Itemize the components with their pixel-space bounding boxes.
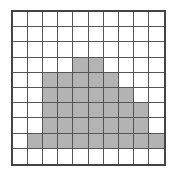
grid-cell [13,118,28,133]
grid-cell [28,27,43,42]
grid-cell [119,149,134,164]
grid-cell-shaded [119,134,134,149]
grid-cell [28,118,43,133]
grid-cell [43,27,58,42]
grid-cell-shaded [73,103,88,118]
grid-cell-shaded [43,103,58,118]
grid-cell [43,12,58,27]
grid-cell [43,58,58,73]
grid-cell [104,42,119,57]
grid-cell [149,42,164,57]
grid-cell [149,118,164,133]
grid-cell [58,58,73,73]
grid-cell-shaded [119,88,134,103]
grid-cell [89,149,104,164]
grid-cell [119,58,134,73]
grid-cell-shaded [104,103,119,118]
grid-cell [89,12,104,27]
grid-cell [73,12,88,27]
grid-cell [134,27,149,42]
grid-cell [28,88,43,103]
grid-cell [89,42,104,57]
grid-cell-shaded [43,118,58,133]
grid-cell-shaded [89,73,104,88]
grid-cell-shaded [119,118,134,133]
grid-cell [58,149,73,164]
grid-cell-shaded [104,88,119,103]
grid-cell-shaded [73,58,88,73]
grid-cell [104,58,119,73]
grid-cell [134,58,149,73]
grid-cell [58,12,73,27]
shaded-grid-diagram [11,10,166,166]
grid-cell-shaded [73,88,88,103]
grid-cell-shaded [43,88,58,103]
grid-cell-shaded [134,134,149,149]
grid-cell-shaded [58,134,73,149]
grid-cell [28,58,43,73]
grid-cell-shaded [73,73,88,88]
grid-cell [134,88,149,103]
grid-cell-shaded [149,134,164,149]
grid-cell [13,88,28,103]
grid-cell [13,134,28,149]
grid-cell [149,27,164,42]
grid-cell [28,42,43,57]
grid-cell [13,27,28,42]
grid-cell [149,88,164,103]
grid-cell-shaded [73,134,88,149]
grid-cell [13,12,28,27]
grid-cell [28,73,43,88]
grid-cell-shaded [58,73,73,88]
grid-cell [13,103,28,118]
grid-cell-shaded [89,58,104,73]
grid-cell [134,42,149,57]
grid-cell-shaded [43,134,58,149]
grid-cell [28,103,43,118]
grid-cell [28,12,43,27]
grid-cell [73,149,88,164]
grid-cell [134,73,149,88]
grid-cell [13,149,28,164]
grid-cell-shaded [119,103,134,118]
grid-cell-shaded [58,103,73,118]
grid-cell [149,73,164,88]
grid-cell [119,42,134,57]
grid-cell [43,149,58,164]
grid-cell-shaded [43,73,58,88]
grid-cell [43,42,58,57]
grid-cell-shaded [58,118,73,133]
grid-cell-shaded [104,118,119,133]
grid-cell [104,149,119,164]
grid-cell [119,73,134,88]
grid-cell-shaded [89,88,104,103]
grid-cell [13,58,28,73]
grid-cell [13,73,28,88]
grid-cell [119,27,134,42]
grid-cell [119,12,134,27]
grid-cell-shaded [89,103,104,118]
grid-cell [58,27,73,42]
grid-cell-shaded [89,134,104,149]
grid-cell [73,42,88,57]
grid-cell-shaded [89,118,104,133]
grid-cell [104,12,119,27]
grid-cell [89,27,104,42]
grid-cell [28,149,43,164]
grid-cell [73,27,88,42]
grid-cell [104,27,119,42]
grid-cell [149,103,164,118]
grid-cell [134,12,149,27]
grid-cell [58,42,73,57]
grid-cell-shaded [28,134,43,149]
grid-cell [149,149,164,164]
grid-cell-shaded [104,134,119,149]
grid-cell-shaded [134,118,149,133]
grid-cell [13,42,28,57]
grid-cell [149,58,164,73]
grid-cell-shaded [104,73,119,88]
grid-cell [134,149,149,164]
grid-cell-shaded [134,103,149,118]
grid-cell-shaded [58,88,73,103]
grid-cell [149,12,164,27]
